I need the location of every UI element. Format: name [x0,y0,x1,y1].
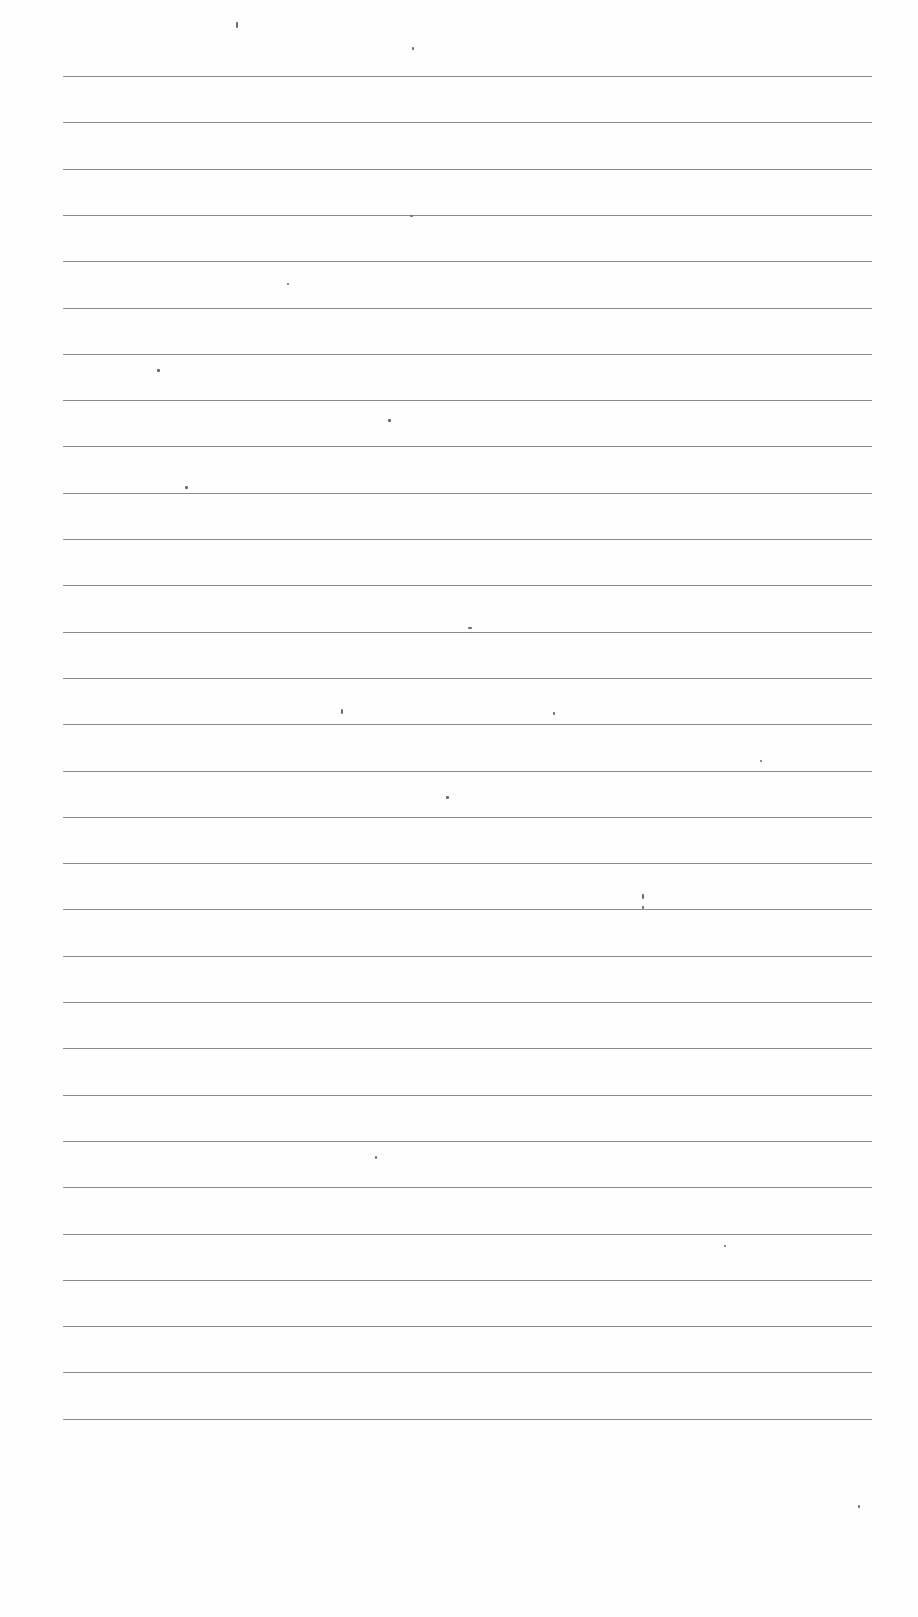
ruled-line [63,261,872,262]
scan-speck [642,894,644,899]
ruled-line [63,493,872,494]
ruled-line [63,308,872,309]
ruled-line [63,678,872,679]
ruled-line [63,169,872,170]
scan-speck [412,47,414,50]
ruled-line [63,1002,872,1003]
ruled-line [63,1419,872,1420]
ruled-line [63,909,872,910]
ruled-line [63,956,872,957]
scan-speck [468,627,472,629]
ruled-line [63,354,872,355]
scan-speck [341,709,343,714]
ruled-line [63,817,872,818]
scan-speck [858,1505,860,1508]
ruled-line [63,539,872,540]
ruled-line [63,1280,872,1281]
ruled-line [63,1141,872,1142]
ruled-line [63,585,872,586]
scan-speck [446,796,449,799]
ruled-line [63,1372,872,1373]
ruled-line [63,1234,872,1235]
ruled-line [63,122,872,123]
ruled-paper-sheet [0,0,918,1617]
ruled-line [63,76,872,77]
scan-speck [724,1245,726,1247]
scan-speck [236,22,238,28]
ruled-line [63,1187,872,1188]
ruled-line [63,215,872,216]
ruled-line [63,1048,872,1049]
scan-speck [287,283,289,285]
scan-speck [157,369,160,372]
ruled-line [63,724,872,725]
ruled-line [63,400,872,401]
scan-speck [642,906,644,909]
ruled-line [63,1095,872,1096]
ruled-line [63,863,872,864]
scan-speck [375,1156,377,1159]
scan-speck [760,760,762,762]
scan-speck [388,419,391,422]
scan-speck [185,486,188,489]
ruled-line [63,632,872,633]
scan-speck [410,215,413,217]
scan-speck [553,712,555,715]
ruled-line [63,771,872,772]
ruled-line [63,1326,872,1327]
ruled-line [63,446,872,447]
